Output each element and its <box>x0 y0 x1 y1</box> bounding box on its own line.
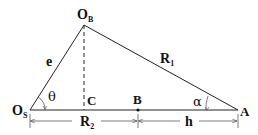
label-theta: θ <box>48 89 56 104</box>
point-b-marker <box>136 108 139 111</box>
label-a: A <box>240 104 250 119</box>
segment-r1 <box>84 25 238 110</box>
label-o-b: OB <box>77 7 94 24</box>
label-r1: R1 <box>160 51 174 68</box>
angle-theta-arc <box>38 97 45 110</box>
label-b: B <box>133 92 142 107</box>
angle-alpha-arc <box>206 96 208 110</box>
label-c: C <box>87 93 96 108</box>
label-alpha: α <box>193 94 202 109</box>
label-e: e <box>46 54 52 69</box>
label-r2: R2 <box>80 114 94 131</box>
geometry-diagram: OB OS C B A e R1 θ α R2 h <box>0 0 258 135</box>
label-h: h <box>185 114 193 129</box>
label-o-s: OS <box>12 103 28 120</box>
